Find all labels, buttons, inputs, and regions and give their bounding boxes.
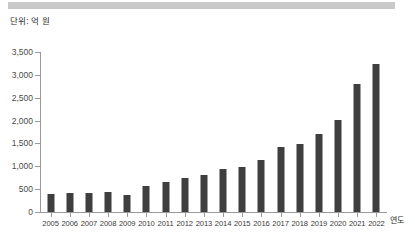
bar xyxy=(277,147,284,212)
x-tick-mark xyxy=(223,213,224,217)
y-tick-mark xyxy=(35,189,40,190)
bar-chart: 05001,0001,5002,0002,5003,0003,500 20052… xyxy=(0,26,415,245)
x-tick-label: 2022 xyxy=(368,219,385,228)
unit-label: 단위: 억 원 xyxy=(10,14,50,26)
y-tick-label: 3,500 xyxy=(0,47,33,57)
y-tick-label: 500 xyxy=(0,184,33,194)
plot-area xyxy=(41,52,386,212)
bar xyxy=(373,64,380,212)
bar xyxy=(335,120,342,212)
x-tick-label: 2021 xyxy=(349,219,366,228)
y-tick-label: 0 xyxy=(0,207,33,217)
y-tick-label: 1,500 xyxy=(0,138,33,148)
bar xyxy=(354,84,361,212)
y-tick-mark xyxy=(35,166,40,167)
header-gray-band xyxy=(8,2,395,9)
x-tick-mark xyxy=(51,213,52,217)
x-tick-mark xyxy=(146,213,147,217)
bar xyxy=(239,167,246,212)
bar xyxy=(200,175,207,212)
x-tick-mark xyxy=(166,213,167,217)
y-tick-label: 1,000 xyxy=(0,161,33,171)
x-tick-mark xyxy=(108,213,109,217)
y-tick-label: 3,000 xyxy=(0,70,33,80)
x-tick-label: 2007 xyxy=(81,219,98,228)
bar xyxy=(66,193,73,212)
bar xyxy=(162,182,169,212)
x-tick-label: 2008 xyxy=(100,219,117,228)
x-tick-label: 2009 xyxy=(119,219,136,228)
x-tick-label: 2017 xyxy=(272,219,289,228)
x-tick-label: 2005 xyxy=(42,219,59,228)
bar xyxy=(258,160,265,212)
x-tick-mark xyxy=(357,213,358,217)
y-tick-mark xyxy=(35,121,40,122)
y-tick-mark xyxy=(35,212,40,213)
x-tick-label: 2019 xyxy=(311,219,328,228)
bar xyxy=(105,192,112,212)
x-tick-label: 2020 xyxy=(330,219,347,228)
x-tick-mark xyxy=(204,213,205,217)
bar xyxy=(85,193,92,212)
x-tick-label: 2011 xyxy=(158,219,174,228)
x-tick-label: 2012 xyxy=(177,219,194,228)
x-tick-mark xyxy=(281,213,282,217)
y-tick-label: 2,000 xyxy=(0,116,33,126)
x-tick-label: 2010 xyxy=(138,219,155,228)
y-tick-mark xyxy=(35,98,40,99)
y-tick-mark xyxy=(35,75,40,76)
x-tick-mark xyxy=(261,213,262,217)
x-tick-label: 2015 xyxy=(234,219,251,228)
bar xyxy=(220,169,227,212)
y-tick-label: 2,500 xyxy=(0,93,33,103)
x-tick-mark xyxy=(89,213,90,217)
y-tick-mark xyxy=(35,52,40,53)
bar xyxy=(296,144,303,212)
x-tick-mark xyxy=(70,213,71,217)
x-tick-mark xyxy=(300,213,301,217)
x-tick-label: 2018 xyxy=(292,219,309,228)
bar xyxy=(47,194,54,212)
x-axis-title: 연도 xyxy=(390,214,404,225)
x-tick-mark xyxy=(376,213,377,217)
bar xyxy=(315,134,322,212)
x-axis-line xyxy=(40,212,387,213)
y-tick-mark xyxy=(35,143,40,144)
x-tick-label: 2006 xyxy=(62,219,79,228)
x-tick-label: 2014 xyxy=(215,219,232,228)
bar xyxy=(181,178,188,213)
x-tick-mark xyxy=(319,213,320,217)
bar xyxy=(124,195,131,212)
x-tick-mark xyxy=(242,213,243,217)
x-tick-mark xyxy=(338,213,339,217)
x-tick-label: 2016 xyxy=(253,219,270,228)
x-tick-mark xyxy=(185,213,186,217)
bar xyxy=(143,186,150,212)
x-tick-mark xyxy=(127,213,128,217)
x-tick-label: 2013 xyxy=(196,219,213,228)
